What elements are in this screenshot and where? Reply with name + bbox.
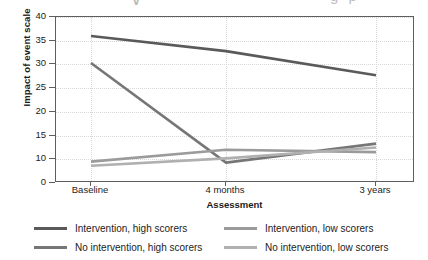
y-tick-label-25: 25 — [22, 82, 46, 92]
y-tick-label-35: 35 — [22, 35, 46, 45]
legend-label-3: No intervention, low scorers — [265, 243, 388, 253]
x-tick-mark-2 — [375, 182, 376, 186]
legend-item-3: No intervention, low scorers — [224, 238, 400, 257]
legend-item-2: No intervention, high scorers — [34, 238, 210, 257]
y-tick-label-15: 15 — [22, 130, 46, 140]
y-tick-label-10: 10 — [22, 153, 46, 163]
x-tick-label-2: 3 years — [330, 185, 420, 195]
legend-item-1: Intervention, low scorers — [224, 219, 400, 238]
y-tick-mark-0 — [49, 182, 55, 183]
cropped-text-artifact: ∨ g p — [0, 0, 428, 12]
y-tick-label-20: 20 — [22, 106, 46, 116]
legend-swatch-1 — [224, 227, 257, 230]
series-line-intervention-high-scorers — [91, 36, 376, 75]
legend-swatch-3 — [224, 246, 257, 249]
cropped-caption-tail: g p — [330, 0, 360, 3]
x-axis-title: Assessment — [55, 199, 414, 210]
legend-swatch-2 — [34, 246, 67, 249]
series-lines — [56, 17, 415, 183]
x-tick-label-1: 4 months — [180, 185, 270, 195]
chevron-down-icon: ∨ — [130, 0, 142, 8]
x-tick-mark-1 — [225, 182, 226, 186]
y-tick-label-0: 0 — [22, 177, 46, 187]
series-line-no-intervention-high-scorers — [91, 63, 376, 163]
legend-label-2: No intervention, high scorers — [75, 243, 202, 253]
chart-legend: Intervention, high scorersIntervention, … — [34, 219, 424, 257]
legend-item-0: Intervention, high scorers — [34, 219, 210, 238]
legend-label-1: Intervention, low scorers — [265, 224, 373, 234]
legend-swatch-0 — [34, 227, 67, 230]
y-tick-label-40: 40 — [22, 11, 46, 21]
y-tick-label-30: 30 — [22, 58, 46, 68]
x-tick-label-0: Baseline — [45, 185, 135, 195]
chart-screenshot: ∨ g p Impact of event scale 403530252015… — [0, 0, 428, 260]
x-tick-mark-0 — [90, 182, 91, 186]
legend-label-0: Intervention, high scorers — [75, 224, 187, 234]
plot-area — [55, 16, 414, 182]
